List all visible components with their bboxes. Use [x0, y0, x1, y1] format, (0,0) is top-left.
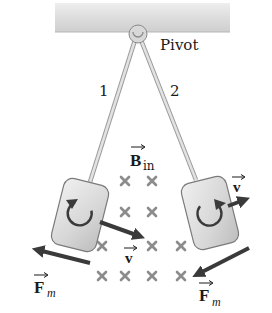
field-x-mark: [121, 208, 129, 216]
magnetic-field-label: B in: [130, 145, 155, 174]
field-x-mark: [177, 272, 185, 280]
field-x-mark: [148, 177, 156, 185]
field-x-mark: [121, 177, 129, 185]
eddy-current-pendulum-diagram: Pivot 1 2 B in: [0, 0, 272, 313]
force-subscript-right: m: [212, 295, 221, 309]
field-x-mark: [177, 242, 185, 250]
velocity-label-left: v: [124, 246, 137, 267]
field-x-mark: [98, 242, 106, 250]
pivot-label: Pivot: [160, 36, 198, 54]
velocity-symbol-left: v: [125, 250, 133, 266]
magnetic-force-arrow-right: [198, 248, 249, 274]
field-subscript: in: [143, 159, 155, 173]
field-x-mark: [148, 208, 156, 216]
velocity-label-right: v: [232, 175, 245, 196]
force-subscript-left: m: [47, 286, 56, 300]
field-x-mark: [148, 272, 156, 280]
field-x-mark: [98, 272, 106, 280]
pivot: [129, 25, 147, 43]
force-label-left: F m: [34, 273, 56, 301]
field-symbol: B: [130, 151, 141, 170]
rod-1-label: 1: [99, 82, 109, 100]
field-x-mark: [121, 272, 129, 280]
rod-1: [90, 40, 135, 182]
field-x-mark: [148, 242, 156, 250]
plate-1: [49, 176, 110, 253]
force-label-right: F m: [199, 281, 221, 310]
plate-2: [179, 174, 240, 251]
velocity-arrow-left: [100, 222, 139, 236]
velocity-symbol-right: v: [233, 179, 241, 195]
force-symbol-left: F: [34, 278, 44, 297]
force-symbol-right: F: [199, 286, 209, 305]
magnetic-force-arrow-left: [38, 250, 90, 263]
rod-2-label: 2: [170, 82, 180, 100]
field-marks: [98, 177, 185, 280]
